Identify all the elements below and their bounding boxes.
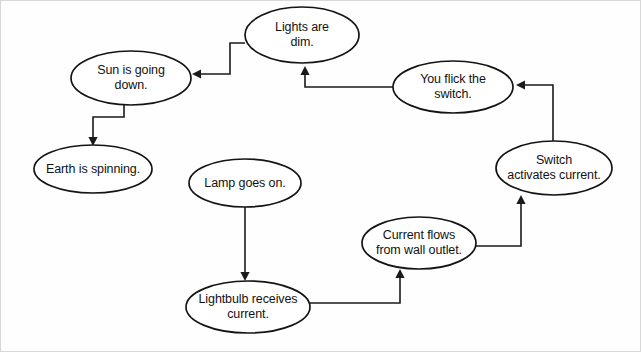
edge-connector (476, 195, 526, 246)
node-you-flick-the-switch[interactable] (393, 61, 513, 113)
node-lights-are-dim[interactable] (245, 7, 359, 63)
arrowhead-icon (192, 69, 201, 78)
edge-connector (88, 105, 124, 146)
node-switch-activates-current[interactable] (496, 141, 612, 195)
arrowhead-icon (516, 80, 525, 89)
edge-path (305, 74, 393, 87)
edge-connector (240, 207, 249, 281)
edge-connector (310, 269, 405, 303)
diagram-canvas: Lights are dim.Sun is going down.You fli… (0, 0, 641, 352)
edge-path (524, 85, 553, 141)
edge-connector (300, 66, 393, 87)
edge-path (200, 43, 245, 74)
arrowhead-icon (300, 66, 309, 75)
edge-path (476, 203, 521, 246)
node-lamp-goes-on[interactable] (189, 159, 301, 207)
node-earth-is-spinning[interactable] (34, 145, 152, 193)
node-sun-is-going-down[interactable] (71, 51, 191, 105)
arrowhead-icon (516, 195, 525, 204)
node-lightbulb-receives-current[interactable] (186, 281, 310, 333)
edge-path (93, 105, 124, 138)
node-current-flows-from-wall-outlet[interactable] (362, 217, 476, 269)
edge-connector (516, 80, 553, 141)
nodes-layer (34, 7, 612, 333)
edge-path (310, 277, 400, 303)
arrowhead-icon (240, 272, 249, 281)
edge-connector (192, 43, 245, 79)
arrowhead-icon (395, 269, 404, 278)
flowchart-graphic (0, 0, 641, 352)
